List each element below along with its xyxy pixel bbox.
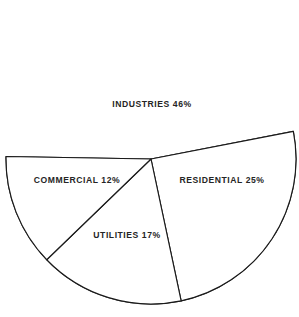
pie-label-industries: INDUSTRIES 46% — [112, 100, 191, 109]
pie-label-utilities: UTILITIES 17% — [93, 231, 160, 240]
pie-label-commercial: COMMERCIAL 12% — [34, 176, 120, 185]
pie-label-residential: RESIDENTIAL 25% — [180, 176, 265, 185]
pie-slice-group — [6, 131, 296, 304]
pie-chart: INDUSTRIES 46% RESIDENTIAL 25% UTILITIES… — [0, 0, 299, 317]
pie-chart-canvas — [0, 0, 299, 317]
